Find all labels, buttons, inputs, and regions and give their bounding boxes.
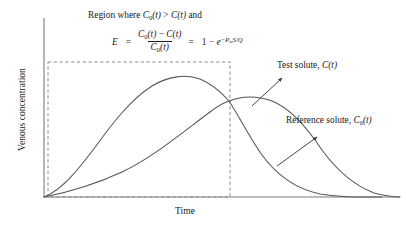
denominator-c0-arg: (t) xyxy=(160,42,169,52)
region-note-suffix: and xyxy=(186,10,202,20)
extraction-equation: E = C0(t) − C(t) C0(t) = 1 − e−PmS/Q xyxy=(112,30,243,54)
reference-label-arg: (t) xyxy=(363,115,372,125)
dashed-region-rect xyxy=(48,62,230,197)
equation-lhs: E xyxy=(112,37,118,47)
x-axis-label: Time xyxy=(175,205,195,216)
region-note-c0-arg: (t) xyxy=(152,10,161,20)
test-label-arg: (t) xyxy=(328,60,337,70)
reference-label-text: Reference solute, xyxy=(286,115,353,125)
region-note-relation: > xyxy=(161,10,171,20)
curve-test-solute xyxy=(44,76,382,197)
equation-equals: = xyxy=(126,37,131,47)
test-label-text: Test solute, xyxy=(277,60,322,70)
equation-numerator: C0(t) − C(t) xyxy=(135,30,184,41)
rhs-exponent: −PmS/Q xyxy=(221,36,243,43)
equation-denominator: C0(t) xyxy=(148,41,172,53)
region-note: Region where C0(t) > C(t) and xyxy=(88,10,202,21)
equation-rhs: 1 − e−PmS/Q xyxy=(202,36,243,47)
y-axis-label: Venous concentration xyxy=(16,45,27,175)
curve-reference-solute xyxy=(44,97,400,197)
label-test-solute: Test solute, C(t) xyxy=(277,60,337,70)
exponent-rest: S/Q xyxy=(233,36,243,43)
region-note-c-arg: (t) xyxy=(177,10,186,20)
equation-fraction: C0(t) − C(t) C0(t) xyxy=(135,30,184,54)
region-note-prefix: Region where xyxy=(88,10,143,20)
numerator-minus: − xyxy=(156,29,166,39)
numerator-c0-arg: (t) xyxy=(147,29,156,39)
label-reference-solute: Reference solute, C0(t) xyxy=(286,115,372,126)
arrow-test-solute xyxy=(252,78,282,106)
arrow-reference-solute xyxy=(277,137,317,166)
figure-venous-concentration-curves: Region where C0(t) > C(t) and E = C0(t) … xyxy=(0,0,406,228)
numerator-c-arg: (t) xyxy=(173,29,182,39)
equation-equals2: = xyxy=(188,37,193,47)
rhs-one-minus: 1 − xyxy=(202,38,217,48)
